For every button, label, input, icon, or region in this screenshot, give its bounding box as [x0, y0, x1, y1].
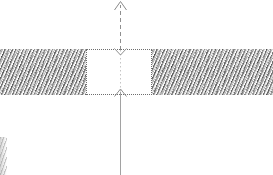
up-arrowhead-icon [115, 2, 127, 11]
figure-canvas [0, 0, 273, 175]
center-gap-box [86, 49, 152, 95]
upper-dashed-axis [115, 2, 127, 51]
left-hatched-block [0, 49, 86, 95]
right-hatched-block [152, 49, 273, 95]
bottom-left-edge-smudge [0, 137, 7, 175]
